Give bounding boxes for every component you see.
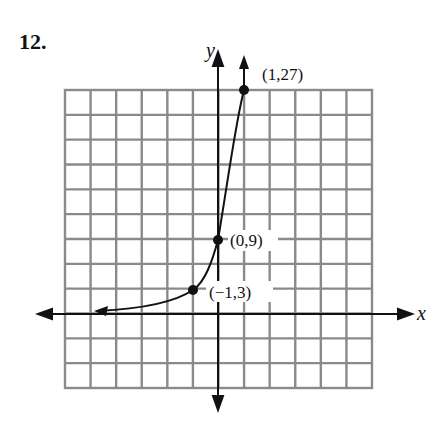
point-1-27 bbox=[239, 85, 249, 95]
axes bbox=[38, 52, 412, 410]
label-1-27: (1,27) bbox=[262, 65, 303, 84]
label-neg1-3: (−1,3) bbox=[209, 283, 251, 302]
x-axis-label: x bbox=[416, 302, 426, 324]
exponential-graph: (−1,3) (0,9) (1,27) y x bbox=[0, 0, 447, 430]
point-0-9 bbox=[213, 235, 223, 245]
exponential-curve bbox=[98, 60, 244, 311]
y-axis-arrow-down-icon bbox=[213, 396, 223, 410]
y-axis-label: y bbox=[204, 39, 215, 62]
x-axis-arrow-right-icon bbox=[398, 309, 412, 319]
label-0-9: (0,9) bbox=[230, 231, 263, 250]
x-axis-arrow-left-icon bbox=[38, 309, 52, 319]
curve-arrow-up-icon bbox=[239, 55, 249, 69]
point-neg1-3 bbox=[188, 285, 198, 295]
